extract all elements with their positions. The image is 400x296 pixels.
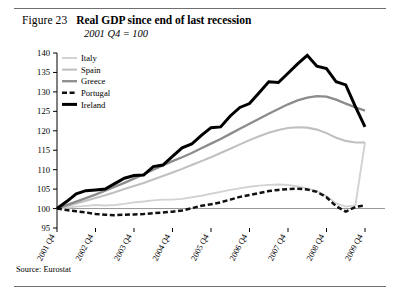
legend-label-portugal: Portugal bbox=[81, 88, 111, 98]
bottom-divider bbox=[14, 286, 386, 287]
svg-text:2001 Q4: 2001 Q4 bbox=[35, 232, 57, 262]
svg-text:2009 Q4: 2009 Q4 bbox=[343, 232, 365, 262]
line-chart-svg: 95100105110115120125130135140 2001 Q4200… bbox=[0, 0, 400, 296]
legend-label-spain: Spain bbox=[81, 65, 101, 75]
svg-text:110: 110 bbox=[37, 165, 50, 175]
svg-text:120: 120 bbox=[37, 126, 50, 136]
svg-text:105: 105 bbox=[37, 184, 50, 194]
svg-text:140: 140 bbox=[37, 48, 50, 58]
series-line-spain bbox=[57, 127, 365, 208]
y-axis: 95100105110115120125130135140 bbox=[37, 48, 57, 233]
x-axis: 2001 Q42002 Q42003 Q42004 Q42005 Q42006 … bbox=[35, 228, 365, 262]
svg-text:2008 Q4: 2008 Q4 bbox=[305, 232, 327, 262]
svg-text:125: 125 bbox=[37, 106, 50, 116]
svg-text:95: 95 bbox=[41, 223, 50, 233]
svg-text:2007 Q4: 2007 Q4 bbox=[266, 232, 288, 262]
svg-text:2002 Q4: 2002 Q4 bbox=[74, 232, 96, 262]
figure-container: Figure 23 Real GDP since end of last rec… bbox=[0, 0, 400, 296]
legend-label-greece: Greece bbox=[81, 76, 106, 86]
chart-plot-area: 95100105110115120125130135140 2001 Q4200… bbox=[0, 0, 400, 296]
series-line-italy bbox=[57, 142, 365, 208]
svg-text:2006 Q4: 2006 Q4 bbox=[228, 232, 250, 262]
legend-label-italy: Italy bbox=[81, 53, 97, 63]
source-note: Source: Eurostat bbox=[16, 265, 71, 274]
svg-text:100: 100 bbox=[37, 204, 50, 214]
svg-text:115: 115 bbox=[37, 145, 50, 155]
chart-legend: ItalySpainGreecePortugalIreland bbox=[62, 53, 111, 109]
svg-text:135: 135 bbox=[37, 67, 50, 77]
svg-text:130: 130 bbox=[37, 87, 50, 97]
svg-text:2003 Q4: 2003 Q4 bbox=[112, 232, 134, 262]
legend-label-ireland: Ireland bbox=[81, 100, 106, 110]
svg-text:2004 Q4: 2004 Q4 bbox=[151, 232, 173, 262]
svg-text:2005 Q4: 2005 Q4 bbox=[189, 232, 211, 262]
